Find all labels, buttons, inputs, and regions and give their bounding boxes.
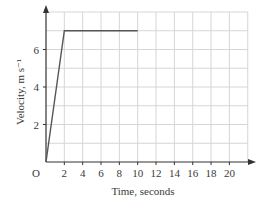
x-axis-label: Time, seconds: [111, 185, 174, 197]
origin-label: O: [32, 167, 40, 179]
x-tick-label: 2: [62, 167, 68, 179]
x-tick-label: 20: [224, 167, 236, 179]
x-tick-label: 12: [151, 167, 162, 179]
x-tick-label: 6: [98, 167, 104, 179]
x-axis-arrow-icon: [248, 159, 256, 165]
x-tick-label: 14: [169, 167, 181, 179]
y-axis-arrow-icon: [43, 5, 49, 13]
x-tick-label: 16: [187, 167, 199, 179]
y-tick-label: 6: [34, 44, 40, 56]
x-tick-label: 8: [117, 167, 123, 179]
x-tick-label: 4: [80, 167, 86, 179]
velocity-line: [46, 31, 138, 162]
velocity-time-chart: 2468101214161820246OTime, secondsVelocit…: [0, 0, 263, 202]
y-tick-label: 4: [34, 81, 40, 93]
y-tick-label: 2: [34, 119, 40, 131]
x-tick-label: 10: [132, 167, 144, 179]
y-axis-label: Velocity, m s⁻¹: [14, 59, 26, 125]
x-tick-label: 18: [206, 167, 218, 179]
